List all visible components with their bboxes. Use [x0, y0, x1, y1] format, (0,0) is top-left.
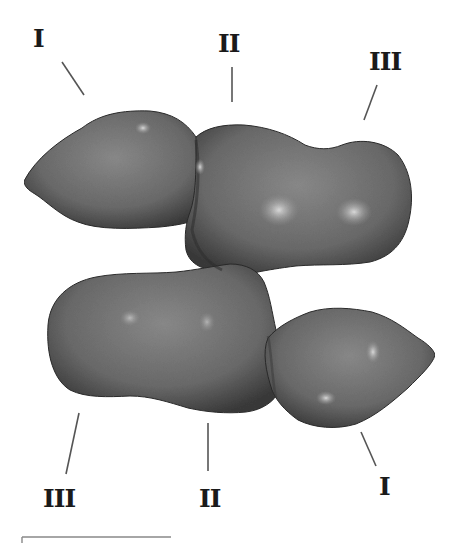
- highlight: [135, 122, 151, 134]
- label-domain-III-top-right: III: [369, 49, 401, 74]
- domain-I-upper: [24, 111, 206, 229]
- leader-line-top-right: [364, 85, 377, 120]
- label-domain-III-bottom-left: III: [43, 486, 75, 511]
- highlight: [336, 198, 372, 226]
- label-domain-II-top-middle: II: [218, 31, 239, 56]
- scale-bar: [22, 537, 171, 543]
- label-domain-I-bottom-right: I: [379, 474, 390, 499]
- label-domain-II-bottom-middle: II: [199, 486, 220, 511]
- highlight: [259, 194, 299, 226]
- label-domain-I-top-left: I: [33, 26, 44, 51]
- highlight: [199, 312, 215, 332]
- highlight: [120, 310, 140, 326]
- leader-line-bottom-left: [66, 413, 79, 474]
- density-map-figure: [0, 0, 454, 543]
- domain-I-lower: [265, 308, 435, 427]
- highlight: [195, 159, 205, 175]
- leader-line-top-left: [62, 62, 84, 95]
- domain-II-III-upper: [185, 125, 411, 276]
- density-body: [24, 111, 435, 428]
- leader-line-bottom-right: [361, 432, 376, 466]
- highlight: [366, 341, 380, 363]
- highlight: [316, 391, 336, 405]
- domain-III-II-lower: [48, 264, 280, 413]
